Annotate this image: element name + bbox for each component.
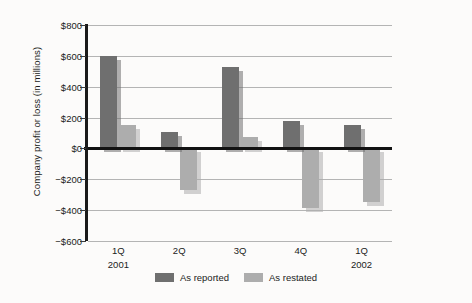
x-axis-quarter: 1Q: [112, 245, 125, 256]
bar-as-restated[interactable]: [180, 148, 197, 190]
x-axis-year: 2001: [108, 258, 129, 271]
x-axis-quarter: 2Q: [173, 245, 186, 256]
y-axis-tick-label: $0: [24, 143, 82, 154]
x-axis-label: 3Q: [234, 244, 247, 257]
bar-face: [302, 148, 319, 207]
bar-face: [283, 121, 300, 149]
bar-as-reported[interactable]: [283, 121, 300, 149]
bar-face: [100, 56, 117, 149]
legend-swatch-as-restated: [244, 273, 263, 282]
x-axis-label: 2Q: [173, 244, 186, 257]
y-axis-tick-label: $600: [24, 50, 82, 61]
y-axis-tick-mark: [80, 210, 86, 211]
zero-baseline: [84, 147, 392, 150]
bar-group: [161, 25, 197, 241]
bar-chart-figure: Company profit or loss (in millions) $80…: [0, 0, 472, 303]
y-axis-tick-mark: [80, 148, 86, 149]
y-axis-tick-label: $400: [24, 81, 82, 92]
bar-face: [222, 67, 239, 149]
y-axis-tick-labels: $800$600$400$200$0−$200−$400−$600: [20, 25, 82, 241]
x-axis-label: 1Q2002: [351, 244, 372, 271]
x-axis-year: 2002: [351, 258, 372, 271]
x-axis-label: 4Q: [294, 244, 307, 257]
bar-face: [161, 132, 178, 148]
legend-item[interactable]: As reported: [155, 272, 229, 283]
bar-as-restated[interactable]: [119, 125, 136, 148]
y-axis-tick-label: −$600: [24, 236, 82, 247]
bar-face: [344, 125, 361, 148]
x-axis-quarter: 4Q: [294, 245, 307, 256]
y-axis-tick-label: $800: [24, 20, 82, 31]
y-axis-tick-mark: [80, 56, 86, 57]
bar-face: [119, 125, 136, 148]
plot-area: [88, 25, 392, 241]
y-axis-tick-mark: [80, 118, 86, 119]
bar-group: [100, 25, 136, 241]
y-axis-tick-mark: [80, 25, 86, 26]
legend-swatch-as-reported: [155, 273, 174, 282]
x-axis-label: 1Q2001: [108, 244, 129, 271]
bar-as-restated[interactable]: [302, 148, 319, 207]
bar-face: [363, 148, 380, 202]
bar-group: [283, 25, 319, 241]
x-axis-quarter: 1Q: [355, 245, 368, 256]
x-axis-quarter: 3Q: [234, 245, 247, 256]
gridline: [88, 241, 392, 242]
y-axis-tick-label: $200: [24, 112, 82, 123]
chart-legend: As reportedAs restated: [0, 272, 472, 283]
y-axis-tick-mark: [80, 179, 86, 180]
legend-label: As restated: [269, 272, 317, 283]
bar-group: [344, 25, 380, 241]
y-axis-tick-label: −$400: [24, 205, 82, 216]
bar-as-restated[interactable]: [363, 148, 380, 202]
bar-face: [180, 148, 197, 190]
y-axis-tick-label: −$200: [24, 174, 82, 185]
bar-as-reported[interactable]: [100, 56, 117, 149]
y-axis-tick-mark: [80, 87, 86, 88]
bar-as-reported[interactable]: [161, 132, 178, 148]
legend-item[interactable]: As restated: [244, 272, 317, 283]
legend-label: As reported: [180, 272, 229, 283]
bar-as-reported[interactable]: [222, 67, 239, 149]
bar-as-reported[interactable]: [344, 125, 361, 148]
bar-group: [222, 25, 258, 241]
y-axis-tick-mark: [80, 241, 86, 242]
